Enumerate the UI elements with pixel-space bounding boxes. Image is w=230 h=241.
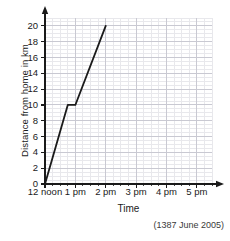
x-tick-label: 5 pm: [170, 186, 224, 197]
y-tick-label: 14: [18, 69, 38, 79]
x-axis-title: Time: [45, 203, 212, 214]
y-tick-label: 20: [18, 21, 38, 31]
distance-time-chart: Distance from home in km 024681012141618…: [0, 0, 230, 241]
y-tick-label: 16: [18, 53, 38, 63]
y-tick-label: 6: [18, 132, 38, 142]
y-tick-label: 8: [18, 116, 38, 126]
y-axis-tick-labels: 02468101214161820: [18, 18, 38, 184]
y-tick-label: 4: [18, 148, 38, 158]
y-tick-label: 18: [18, 37, 38, 47]
plot-area: [45, 18, 212, 184]
attribution-text: (1387 June 2005): [153, 220, 224, 230]
y-tick-label: 10: [18, 100, 38, 110]
data-series-line: [45, 18, 212, 184]
y-tick-label: 2: [18, 163, 38, 173]
y-tick-label: 12: [18, 84, 38, 94]
x-axis-tick-labels: 12 noon1 pm2 pm3 pm4 pm5 pm: [0, 186, 230, 200]
